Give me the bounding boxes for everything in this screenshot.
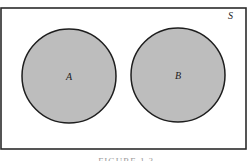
- sample-space-label: S: [228, 10, 233, 21]
- set-b-label: B: [175, 70, 181, 81]
- venn-diagram: S A B: [0, 0, 252, 161]
- figure-caption: FIGURE 1.?: [0, 156, 252, 161]
- set-a-label: A: [65, 71, 73, 82]
